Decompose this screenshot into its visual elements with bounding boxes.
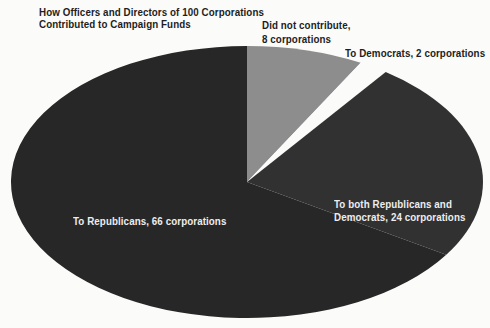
chart-title: How Officers and Directors of 100 Corpor… [39, 6, 264, 30]
callout-to-both-republicans-and-democrats: To both Republicans and Democrats, 24 co… [334, 198, 466, 224]
callout-did-not-contribute: Did not contribute, 8 corporations [262, 19, 350, 46]
chart-title-line: Contributed to Campaign Funds [39, 18, 264, 30]
callout-line: 8 corporations [262, 33, 350, 47]
callout-line: To Democrats, 2 corporations [345, 47, 485, 61]
callout-line: Democrats, 24 corporations [334, 211, 466, 224]
callout-line: Did not contribute, [262, 19, 350, 33]
callout-to-democrats: To Democrats, 2 corporations [345, 47, 485, 61]
callout-line: To both Republicans and [334, 198, 466, 211]
campaign-contributions-figure: How Officers and Directors of 100 Corpor… [0, 0, 490, 328]
callout-to-republicans: To Republicans, 66 corporations [73, 215, 226, 229]
chart-title-line: How Officers and Directors of 100 Corpor… [39, 6, 264, 18]
callout-line: To Republicans, 66 corporations [73, 215, 226, 229]
